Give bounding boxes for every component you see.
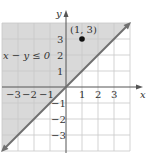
y-axis-label: y	[55, 8, 62, 19]
x-tick-label: −2	[22, 89, 37, 100]
y-tick-label: 3	[57, 34, 63, 45]
inequality-graph: (1, 3) x − y ≤ 0 x y −3 −2 −1 1 2 3 3 2 …	[0, 0, 151, 158]
x-tick-label: 3	[111, 89, 117, 100]
x-tick-label: 1	[79, 89, 85, 100]
point-marker	[79, 36, 85, 42]
x-tick-label: −3	[6, 89, 21, 100]
y-tick-label: −1	[51, 98, 66, 109]
x-tick-label: 2	[95, 89, 101, 100]
y-tick-label: 2	[57, 50, 63, 61]
y-tick-label: −2	[51, 114, 66, 125]
y-axis-arrow-icon	[64, 10, 69, 17]
y-tick-label: −3	[51, 130, 66, 141]
x-axis-label: x	[140, 89, 146, 100]
inequality-label: x − y ≤ 0	[3, 50, 51, 61]
point-label: (1, 3)	[70, 24, 97, 35]
y-tick-label: 1	[57, 66, 63, 77]
